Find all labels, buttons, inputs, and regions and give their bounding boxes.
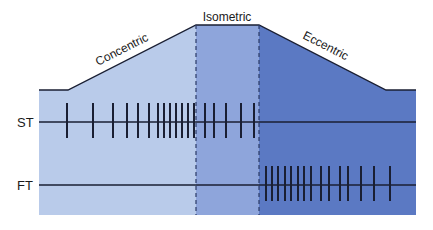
phase-regions [39, 25, 416, 215]
row-label-st: ST [17, 115, 34, 130]
phase-label-isometric: Isometric [203, 10, 252, 24]
row-label-ft: FT [17, 178, 33, 193]
muscle-action-diagram: Concentric Isometric Eccentric ST FT [0, 0, 433, 230]
